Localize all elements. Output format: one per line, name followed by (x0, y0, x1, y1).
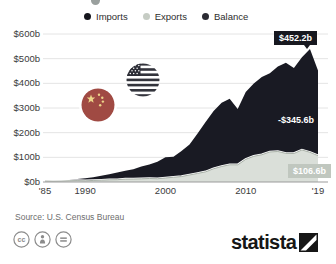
exports-value-badge: $106.6b (288, 164, 331, 178)
y-axis-label: $100b (0, 151, 40, 162)
statista-logo[interactable]: statista (231, 231, 318, 254)
y-axis-label: $500b (0, 53, 40, 64)
y-axis-label: $300b (0, 102, 40, 113)
us-flag-icon (126, 63, 160, 97)
balance-value: -$345.6b (278, 115, 314, 125)
x-axis-label: 2000 (155, 185, 176, 196)
y-axis-label: $600b (0, 28, 40, 39)
badge-pointer (304, 45, 310, 49)
cc-icon[interactable]: cc (13, 231, 30, 248)
statista-logo-text: statista (231, 231, 296, 254)
x-axis-label: 1990 (75, 185, 96, 196)
license-icons: cc (13, 231, 72, 248)
attribution-person-icon[interactable] (34, 231, 51, 248)
y-axis-label: $0b (0, 176, 40, 187)
china-flag-icon (81, 88, 115, 122)
imports-value-badge: $452.2b (274, 31, 317, 45)
infographic: Imports Exports Balance (0, 0, 336, 264)
x-axis-label: '19 (312, 185, 324, 196)
x-axis-label: '85 (39, 185, 51, 196)
balance-value-label: -$345.6b (276, 113, 316, 127)
x-axis-label: 2010 (235, 185, 256, 196)
y-axis-label: $200b (0, 127, 40, 138)
svg-text:cc: cc (18, 236, 26, 243)
y-axis-label: $400b (0, 77, 40, 88)
source-note: Source: U.S. Census Bureau (15, 212, 124, 222)
imports-value: $452.2b (279, 33, 312, 43)
exports-value: $106.6b (293, 166, 326, 176)
no-derivatives-equals-icon[interactable] (55, 231, 72, 248)
statista-logo-icon (299, 233, 318, 252)
